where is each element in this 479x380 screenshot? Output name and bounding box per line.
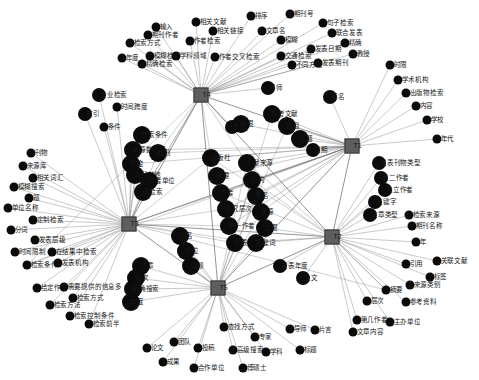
- graph-node[interactable]: 刊物: [27, 149, 36, 158]
- graph-node[interactable]: 层次: [363, 297, 372, 306]
- graph-node[interactable]: 单位名称: [4, 204, 13, 213]
- graph-node[interactable]: 教授: [349, 50, 358, 59]
- node-label: 精确: [349, 40, 363, 47]
- graph-node[interactable]: 第一作者: [220, 217, 238, 235]
- graph-node[interactable]: 高级搜索: [229, 346, 238, 355]
- graph-hub-T5[interactable]: T5: [211, 281, 226, 296]
- graph-node[interactable]: 年: [412, 238, 421, 247]
- graph-node[interactable]: 检索前半: [85, 320, 94, 329]
- graph-node[interactable]: 学术机构: [394, 76, 403, 85]
- graph-node[interactable]: 相关文献: [192, 18, 201, 27]
- graph-node[interactable]: 需要提供的信息多: [60, 283, 69, 292]
- graph-node[interactable]: 检索方法: [46, 301, 55, 310]
- graph-node[interactable]: 精确: [341, 39, 350, 48]
- graph-node[interactable]: 作者检索: [186, 37, 195, 46]
- graph-node[interactable]: 投稿: [194, 344, 203, 353]
- graph-node[interactable]: 给定作者: [33, 284, 42, 293]
- graph-node[interactable]: 定制检索: [29, 216, 38, 225]
- graph-node[interactable]: 期刊: [149, 144, 167, 162]
- graph-node[interactable]: 文章内容: [349, 328, 358, 337]
- graph-node[interactable]: 全文: [296, 271, 310, 285]
- graph-node[interactable]: 分词: [7, 226, 16, 235]
- graph-node[interactable]: 联合发表: [328, 29, 337, 38]
- graph-node[interactable]: 发表层级: [31, 236, 40, 245]
- graph-node[interactable]: 团队: [170, 338, 179, 347]
- graph-node[interactable]: 题名: [323, 90, 337, 104]
- graph-node[interactable]: 关联文献: [433, 257, 442, 266]
- graph-node[interactable]: 交通检索: [277, 52, 286, 61]
- graph-node[interactable]: 研究层次: [217, 200, 235, 218]
- graph-node[interactable]: 主办单位: [386, 318, 395, 327]
- graph-node[interactable]: 句子检索: [319, 19, 328, 28]
- graph-node[interactable]: 来源库: [19, 162, 28, 171]
- graph-node[interactable]: 期刊名称: [408, 222, 417, 231]
- graph-node[interactable]: 导师: [261, 81, 275, 95]
- graph-node[interactable]: 时间限制: [11, 248, 20, 257]
- graph-node[interactable]: 导师: [286, 325, 295, 334]
- graph-node[interactable]: 标题: [296, 346, 305, 355]
- graph-node[interactable]: 发表机构: [54, 259, 63, 268]
- graph-node[interactable]: 文章类型: [363, 208, 377, 222]
- graph-node[interactable]: 摘要: [382, 286, 391, 295]
- graph-node[interactable]: 年代: [433, 135, 442, 144]
- graph-node[interactable]: 检索控制条件: [66, 312, 75, 321]
- graph-node[interactable]: 查找方式: [220, 323, 229, 332]
- graph-node[interactable]: 文章名: [258, 27, 267, 36]
- graph-node[interactable]: 题检索: [134, 183, 152, 201]
- node-label: 交通检索: [285, 53, 312, 60]
- graph-node[interactable]: 学科领域: [172, 52, 181, 61]
- graph-node[interactable]: 文献来源: [238, 154, 256, 172]
- graph-node[interactable]: 在结果中检索: [48, 248, 57, 257]
- graph-node[interactable]: 相关词汇: [29, 174, 38, 183]
- graph-node[interactable]: 检索方式: [126, 39, 135, 48]
- graph-node[interactable]: 发表刊物类型: [372, 156, 386, 170]
- graph-node[interactable]: 年度: [122, 293, 140, 311]
- graph-node[interactable]: 关键词: [247, 234, 265, 252]
- graph-node[interactable]: 来源类别: [406, 281, 415, 290]
- graph-node[interactable]: 期刊号: [286, 10, 295, 19]
- graph-node[interactable]: 专家: [251, 333, 260, 342]
- graph-node[interactable]: 发表时间: [226, 234, 244, 252]
- graph-node[interactable]: 模糊: [277, 36, 286, 45]
- graph-node[interactable]: 合作单位: [190, 364, 199, 373]
- graph-node[interactable]: 检索来源: [405, 211, 414, 220]
- graph-node[interactable]: 发表年度: [273, 259, 287, 273]
- graph-node[interactable]: 摘要: [208, 167, 226, 185]
- graph-node[interactable]: 博硕士: [239, 364, 248, 373]
- graph-node[interactable]: 参考资料: [402, 298, 411, 307]
- graph-node[interactable]: 被引: [78, 107, 92, 121]
- graph-node[interactable]: 排序: [247, 12, 256, 21]
- graph-node[interactable]: 出版社: [202, 149, 220, 167]
- graph-node[interactable]: 第几作者: [353, 316, 362, 325]
- graph-node[interactable]: 内容: [412, 102, 421, 111]
- graph-hub-T2[interactable]: T2: [325, 230, 340, 245]
- graph-node[interactable]: 学校: [423, 116, 432, 125]
- graph-node[interactable]: 出版物检索: [402, 89, 411, 98]
- graph-node[interactable]: 时限: [386, 61, 395, 70]
- node-label: 条件: [108, 124, 122, 131]
- graph-hub-T4[interactable]: T4: [194, 88, 209, 103]
- node-label: 博硕士: [247, 365, 267, 372]
- graph-hub-T1[interactable]: T1: [345, 139, 360, 154]
- graph-node[interactable]: 作者交叉检索: [211, 53, 220, 62]
- graph-node[interactable]: 相关链接: [209, 27, 218, 36]
- graph-node[interactable]: 条件: [100, 123, 109, 132]
- graph-node[interactable]: 年限: [225, 120, 239, 134]
- graph-node[interactable]: 日期: [306, 143, 320, 157]
- graph-node[interactable]: 题: [25, 194, 34, 203]
- graph-node[interactable]: 关键字: [368, 195, 382, 209]
- graph-node[interactable]: 成果: [159, 358, 168, 367]
- graph-hub-T3[interactable]: T3: [122, 217, 137, 232]
- graph-node[interactable]: 论文: [143, 344, 152, 353]
- graph-node[interactable]: 时间跨度: [113, 103, 122, 112]
- graph-node[interactable]: 不同方法: [288, 61, 297, 70]
- graph-node[interactable]: 词频: [182, 257, 200, 275]
- graph-node[interactable]: 片言: [311, 326, 320, 335]
- graph-node[interactable]: 年度: [118, 54, 127, 63]
- graph-node[interactable]: 模糊搜索: [10, 183, 19, 192]
- graph-node[interactable]: 检索条件: [23, 261, 32, 270]
- graph-node[interactable]: 引用: [402, 260, 411, 269]
- graph-node[interactable]: 精确检索: [138, 60, 147, 69]
- graph-node[interactable]: 学科: [262, 348, 271, 357]
- graph-node[interactable]: 专业检索: [92, 88, 106, 102]
